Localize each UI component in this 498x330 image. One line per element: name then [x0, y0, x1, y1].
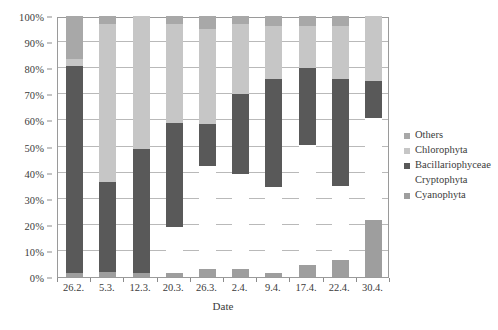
- y-axis-tick-label: 0%: [30, 273, 44, 284]
- bar-segment-cyanophyta[interactable]: [232, 269, 249, 277]
- y-axis-tick-mark: [47, 17, 52, 18]
- chart-legend: OthersChlorophytaBacillariophyceaeCrypto…: [404, 128, 498, 203]
- bar-stack[interactable]: [66, 16, 83, 277]
- y-axis-tick-label: 80%: [24, 64, 44, 75]
- bar-segment-cyanophyta[interactable]: [66, 273, 83, 277]
- legend-swatch-icon: [404, 148, 410, 154]
- y-axis-tick-mark: [47, 147, 52, 148]
- x-axis: 26.2.5.3.12.3.20.3.26.3.2.4.9.4.17.4.22.…: [57, 282, 389, 300]
- legend-item-bacillariophyceae[interactable]: Bacillariophyceae: [404, 158, 498, 173]
- x-axis-tick-label: 26.2.: [63, 282, 84, 293]
- bar-segment-cyanophyta[interactable]: [299, 265, 316, 277]
- bar-stack[interactable]: [365, 16, 382, 277]
- y-axis-tick-mark: [47, 173, 52, 174]
- bar-segment-bacillariophyceae[interactable]: [133, 149, 150, 273]
- bar-segment-cyanophyta[interactable]: [133, 273, 150, 277]
- bar-segment-others[interactable]: [166, 16, 183, 24]
- y-axis-tick-label: 10%: [24, 246, 44, 257]
- bar-segment-bacillariophyceae[interactable]: [166, 123, 183, 227]
- chart-figure: 0%10%20%30%40%50%60%70%80%90%100% 26.2.5…: [0, 0, 498, 330]
- bar-segment-chlorophyta[interactable]: [99, 24, 116, 182]
- bar-segment-bacillariophyceae[interactable]: [99, 182, 116, 272]
- bar-segment-others[interactable]: [232, 16, 249, 24]
- bar-segment-chlorophyta[interactable]: [199, 29, 216, 124]
- bar-segment-others[interactable]: [66, 16, 83, 59]
- bar-segment-cyanophyta[interactable]: [166, 273, 183, 277]
- bar-segment-bacillariophyceae[interactable]: [265, 79, 282, 187]
- x-axis-tick-label: 2.4.: [232, 282, 248, 293]
- x-axis-tick-label: 9.4.: [265, 282, 281, 293]
- y-axis-tick-label: 90%: [24, 38, 44, 49]
- x-axis-tick-mark: [389, 278, 390, 282]
- bar-segment-others[interactable]: [299, 16, 316, 26]
- bar-segment-bacillariophyceae[interactable]: [199, 124, 216, 166]
- x-axis-tick-mark: [157, 278, 158, 282]
- bar-segment-chlorophyta[interactable]: [133, 16, 150, 149]
- legend-swatch-icon: [404, 178, 410, 184]
- x-axis-tick-label: 26.3.: [196, 282, 217, 293]
- bar-segment-chlorophyta[interactable]: [265, 26, 282, 78]
- bar-segment-others[interactable]: [332, 16, 349, 26]
- bar-segment-cryptophyta[interactable]: [199, 166, 216, 269]
- bar-segment-others[interactable]: [199, 16, 216, 29]
- legend-label: Bacillariophyceae: [415, 160, 491, 171]
- bar-stack[interactable]: [166, 16, 183, 277]
- bar-stack[interactable]: [265, 16, 282, 277]
- bar-segment-cryptophyta[interactable]: [365, 118, 382, 220]
- legend-swatch-icon: [404, 163, 410, 169]
- bar-segment-bacillariophyceae[interactable]: [66, 66, 83, 273]
- y-axis-tick-label: 30%: [24, 194, 44, 205]
- y-axis-tick-mark: [47, 278, 52, 279]
- bar-segment-cryptophyta[interactable]: [332, 186, 349, 260]
- y-axis-tick-label: 70%: [24, 90, 44, 101]
- legend-label: Cyanophyta: [415, 190, 466, 201]
- bar-segment-cyanophyta[interactable]: [265, 273, 282, 277]
- bar-segment-chlorophyta[interactable]: [232, 24, 249, 94]
- bar-segment-others[interactable]: [265, 16, 282, 26]
- bar-stack[interactable]: [299, 16, 316, 277]
- plot-area: [57, 17, 389, 278]
- bar-segment-chlorophyta[interactable]: [365, 16, 382, 81]
- bar-segment-bacillariophyceae[interactable]: [332, 79, 349, 186]
- bar-segment-bacillariophyceae[interactable]: [299, 68, 316, 145]
- legend-label: Others: [415, 130, 443, 141]
- bar-segment-cyanophyta[interactable]: [199, 269, 216, 277]
- y-axis-tick-mark: [47, 69, 52, 70]
- bar-segment-cryptophyta[interactable]: [166, 227, 183, 273]
- bar-segment-cryptophyta[interactable]: [299, 145, 316, 265]
- bar-stack[interactable]: [199, 16, 216, 277]
- bar-segment-cyanophyta[interactable]: [332, 260, 349, 277]
- x-axis-tick-mark: [289, 278, 290, 282]
- bar-segment-chlorophyta[interactable]: [166, 24, 183, 123]
- y-axis-tick-mark: [47, 199, 52, 200]
- x-axis-tick-mark: [90, 278, 91, 282]
- bars-layer: [58, 18, 388, 277]
- y-axis: 0%10%20%30%40%50%60%70%80%90%100%: [0, 17, 52, 278]
- y-axis-tick-mark: [47, 95, 52, 96]
- bar-segment-cyanophyta[interactable]: [99, 272, 116, 277]
- bar-segment-bacillariophyceae[interactable]: [232, 94, 249, 174]
- bar-segment-bacillariophyceae[interactable]: [365, 81, 382, 118]
- y-axis-tick-label: 60%: [24, 116, 44, 127]
- x-axis-tick-mark: [323, 278, 324, 282]
- bar-stack[interactable]: [332, 16, 349, 277]
- legend-label: Cryptophyta: [415, 175, 468, 186]
- x-axis-tick-label: 17.4.: [296, 282, 317, 293]
- bar-stack[interactable]: [133, 16, 150, 277]
- legend-item-cryptophyta[interactable]: Cryptophyta: [404, 173, 498, 188]
- bar-segment-cryptophyta[interactable]: [232, 174, 249, 269]
- legend-item-chlorophyta[interactable]: Chlorophyta: [404, 143, 498, 158]
- bar-segment-cryptophyta[interactable]: [265, 187, 282, 273]
- legend-swatch-icon: [404, 133, 410, 139]
- bar-stack[interactable]: [232, 16, 249, 277]
- legend-label: Chlorophyta: [415, 145, 468, 156]
- bar-segment-cyanophyta[interactable]: [365, 220, 382, 277]
- legend-item-cyanophyta[interactable]: Cyanophyta: [404, 188, 498, 203]
- bar-segment-chlorophyta[interactable]: [299, 26, 316, 68]
- bar-stack[interactable]: [99, 16, 116, 277]
- legend-item-others[interactable]: Others: [404, 128, 498, 143]
- bar-segment-chlorophyta[interactable]: [332, 26, 349, 78]
- x-axis-tick-label: 22.4.: [329, 282, 350, 293]
- bar-segment-others[interactable]: [99, 16, 116, 24]
- x-axis-tick-mark: [190, 278, 191, 282]
